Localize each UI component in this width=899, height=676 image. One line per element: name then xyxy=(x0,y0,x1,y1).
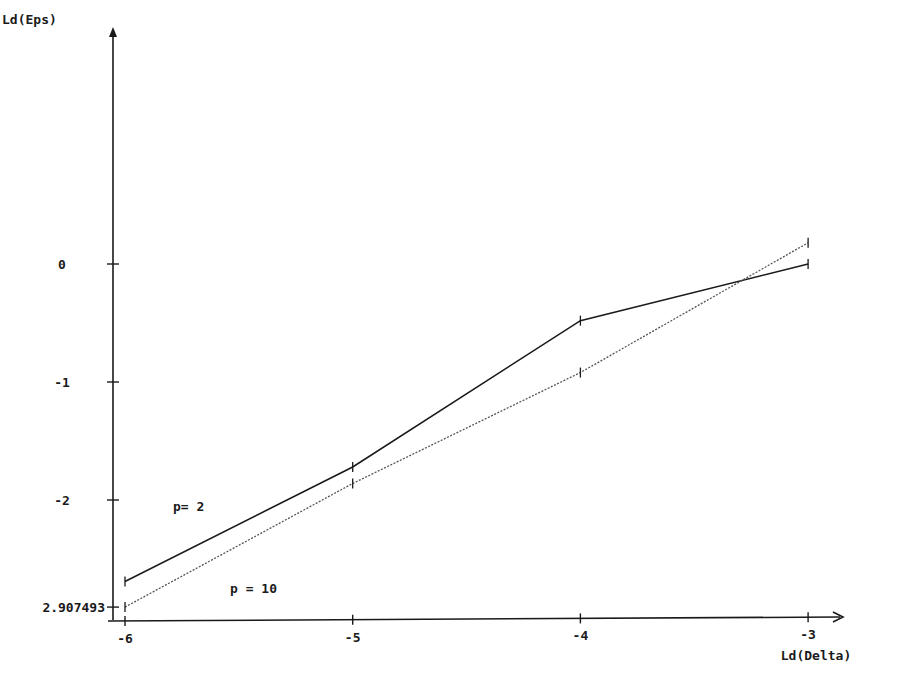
series-lines xyxy=(125,238,808,612)
series-label-p10: p = 10 xyxy=(230,581,277,596)
x-axis xyxy=(108,617,840,621)
y-tick-label: 2.907493 xyxy=(42,600,105,615)
y-tick-label: -2 xyxy=(54,493,70,508)
y-axis-arrow-icon xyxy=(109,27,117,37)
x-tick-label: -4 xyxy=(573,628,589,643)
series-line-p10 xyxy=(125,243,808,607)
x-axis-label: Ld(Delta) xyxy=(781,648,851,663)
y-tick-label: 0 xyxy=(58,257,66,272)
x-tick-label: -3 xyxy=(800,627,816,642)
series-label-p2: p= 2 xyxy=(173,499,204,514)
series-line-p2 xyxy=(125,264,808,581)
line-chart: -6-5-4-3 0-1-22.907493 Ld(Eps) Ld(Delta)… xyxy=(0,0,899,676)
x-tick-label: -6 xyxy=(117,631,133,646)
y-ticks: 0-1-22.907493 xyxy=(42,257,119,615)
y-tick-label: -1 xyxy=(54,375,70,390)
y-axis-label: Ld(Eps) xyxy=(2,12,57,27)
x-tick-label: -5 xyxy=(345,630,361,645)
